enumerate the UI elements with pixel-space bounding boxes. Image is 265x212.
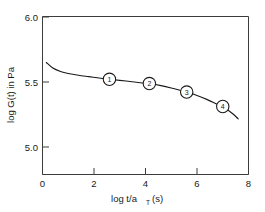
x-tick-label-0: 0	[40, 178, 45, 189]
data-marker-label: 4	[221, 103, 225, 110]
data-curve	[46, 63, 238, 119]
chart-figure: 5.0 5.5 6.0 0 2 4 6 8 log t/a T (s) log …	[0, 0, 265, 212]
data-marker-label: 3	[185, 89, 189, 96]
x-tick-label-2: 4	[143, 178, 148, 189]
x-axis-title-subscript: T	[146, 199, 150, 206]
x-axis-title-main: log t/a	[111, 193, 138, 204]
data-marker-label: 2	[147, 80, 151, 87]
y-tick-label-1: 5.5	[25, 77, 38, 88]
y-tick-label-0: 5.0	[25, 142, 38, 153]
x-axis-title-unit: (s)	[152, 193, 163, 204]
x-tick-label-4: 8	[246, 178, 251, 189]
y-axis-ticks	[43, 17, 50, 147]
y-tick-label-2: 6.0	[25, 12, 38, 23]
data-marker-label: 1	[107, 76, 111, 83]
x-axis-title: log t/a T (s)	[111, 193, 163, 206]
x-tick-label-1: 2	[91, 178, 96, 189]
relaxation-modulus-chart: 5.0 5.5 6.0 0 2 4 6 8 log t/a T (s) log …	[0, 0, 265, 212]
data-markers: 1234	[103, 73, 229, 113]
x-tick-label-3: 6	[194, 178, 199, 189]
y-axis-title: log G(t) in Pa	[5, 66, 16, 123]
plot-frame	[43, 17, 249, 175]
x-axis-ticks	[43, 168, 249, 175]
